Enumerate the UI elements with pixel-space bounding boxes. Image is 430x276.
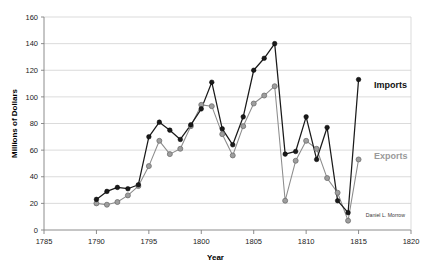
data-point-imports <box>314 157 319 162</box>
data-point-imports <box>346 210 351 215</box>
data-point-exports <box>304 138 309 143</box>
x-tick-label: 1795 <box>141 237 158 246</box>
y-tick-label: 160 <box>25 13 38 22</box>
data-point-imports <box>272 41 277 46</box>
data-point-exports <box>241 124 246 129</box>
legend-label-exports: Exports <box>374 151 408 161</box>
data-point-exports <box>346 218 351 223</box>
data-point-exports <box>104 202 109 207</box>
y-tick-label: 40 <box>30 172 38 181</box>
data-point-imports <box>283 152 288 157</box>
data-point-imports <box>115 185 120 190</box>
data-point-imports <box>178 137 183 142</box>
data-point-exports <box>251 101 256 106</box>
data-point-imports <box>209 80 214 85</box>
x-tick-label: 1810 <box>298 237 315 246</box>
data-point-imports <box>304 115 309 120</box>
data-point-exports <box>272 84 277 89</box>
x-tick-label: 1785 <box>36 237 53 246</box>
data-point-imports <box>262 56 267 61</box>
y-tick-label: 120 <box>25 66 38 75</box>
data-point-exports <box>314 146 319 151</box>
data-point-exports <box>262 93 267 98</box>
data-point-imports <box>199 107 204 112</box>
data-point-imports <box>126 186 131 191</box>
data-point-exports <box>293 158 298 163</box>
chart-container: 0204060801001201401601785179017951800180… <box>0 0 430 276</box>
y-tick-label: 20 <box>30 199 38 208</box>
legend-label-imports: Imports <box>374 80 407 90</box>
data-point-exports <box>356 157 361 162</box>
data-point-imports <box>157 120 162 125</box>
data-point-exports <box>115 200 120 205</box>
x-tick-label: 1815 <box>350 237 367 246</box>
data-point-imports <box>356 77 361 82</box>
data-point-imports <box>325 125 330 130</box>
data-point-exports <box>157 138 162 143</box>
data-point-exports <box>220 132 225 137</box>
data-point-exports <box>146 164 151 169</box>
data-point-exports <box>178 146 183 151</box>
data-point-imports <box>189 123 194 128</box>
data-point-imports <box>293 149 298 154</box>
data-point-exports <box>209 104 214 109</box>
data-point-exports <box>335 190 340 195</box>
data-point-imports <box>251 68 256 73</box>
data-point-exports <box>230 153 235 158</box>
data-point-imports <box>147 135 152 140</box>
y-tick-label: 100 <box>25 93 38 102</box>
data-point-imports <box>220 127 225 132</box>
data-point-exports <box>283 198 288 203</box>
y-tick-label: 80 <box>30 119 38 128</box>
x-tick-label: 1820 <box>403 237 420 246</box>
y-tick-label: 0 <box>34 226 38 235</box>
data-point-imports <box>105 189 110 194</box>
y-tick-label: 60 <box>30 146 38 155</box>
y-tick-label: 140 <box>25 39 38 48</box>
data-point-imports <box>168 128 173 133</box>
data-point-exports <box>125 193 130 198</box>
data-point-imports <box>335 198 340 203</box>
data-point-exports <box>325 176 330 181</box>
data-point-imports <box>230 143 235 148</box>
x-tick-label: 1790 <box>88 237 105 246</box>
data-point-imports <box>241 115 246 120</box>
line-chart: 0204060801001201401601785179017951800180… <box>0 0 430 276</box>
data-point-imports <box>94 197 99 202</box>
x-tick-label: 1800 <box>193 237 210 246</box>
x-axis-title: Year <box>207 253 224 262</box>
data-point-imports <box>136 182 141 187</box>
credit-annotation: Daniel L. Morrow <box>366 212 405 218</box>
y-axis-title: Millions of Dollars <box>10 89 19 158</box>
data-point-exports <box>167 152 172 157</box>
x-tick-label: 1805 <box>245 237 262 246</box>
